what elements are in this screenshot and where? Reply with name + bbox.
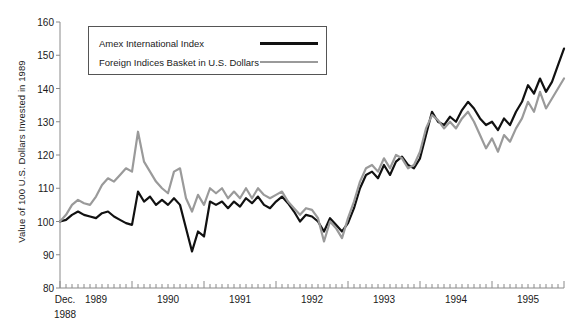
legend-item: Foreign Indices Basket in U.S. Dollars xyxy=(99,54,318,70)
x-axis-origin-label-line1: Dec. xyxy=(55,294,76,305)
x-axis-origin-label-line2: 1988 xyxy=(54,309,76,320)
legend-item-label: Amex International Index xyxy=(99,38,204,49)
x-axis-year-label: 1994 xyxy=(445,294,467,305)
chart-root: Value of 100 U.S. Dollars Invested in 19… xyxy=(0,0,568,333)
chart-legend: Amex International IndexForeign Indices … xyxy=(88,26,327,75)
x-axis-year-label: 1992 xyxy=(301,294,323,305)
legend-item-label: Foreign Indices Basket in U.S. Dollars xyxy=(99,57,259,68)
x-axis-year-label: 1989 xyxy=(85,294,107,305)
legend-item: Amex International Index xyxy=(99,35,318,51)
legend-item-swatch xyxy=(260,42,318,45)
x-axis-year-label: 1993 xyxy=(373,294,395,305)
x-axis-year-label: 1995 xyxy=(517,294,539,305)
x-axis-year-label: 1990 xyxy=(157,294,179,305)
x-axis-year-label: 1991 xyxy=(229,294,251,305)
legend-item-swatch xyxy=(260,61,318,63)
